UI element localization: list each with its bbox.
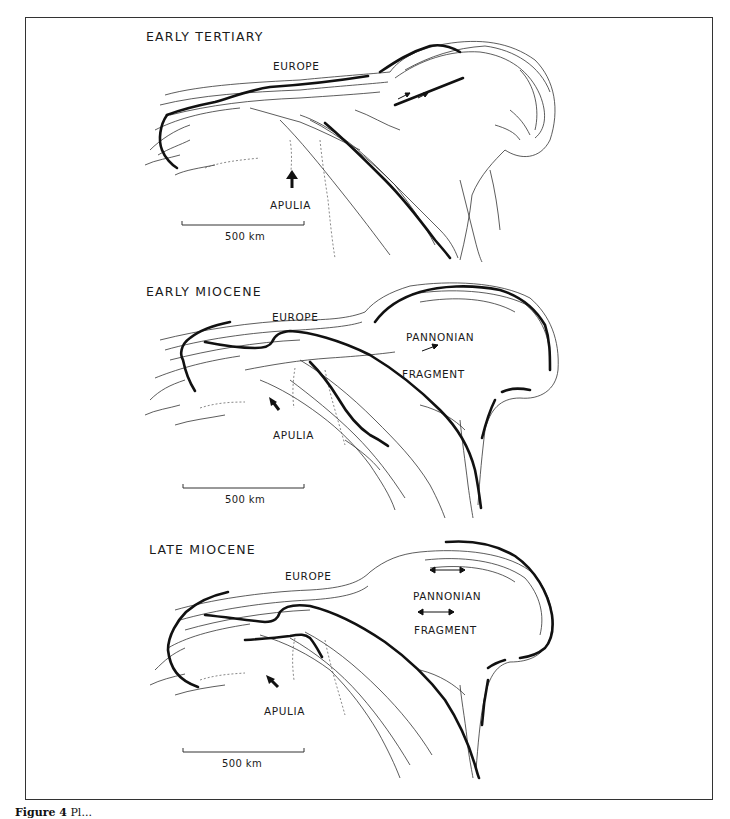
panel-early-miocene: EARLY MIOCENE EUROPE PANNONIAN FRAGMENT … xyxy=(0,260,730,520)
apulia-motion-arrow-icon xyxy=(266,675,278,687)
panel-title: EARLY MIOCENE xyxy=(146,284,262,299)
panel-early-tertiary: EARLY TERTIARY EUROPE APULIA 500 km xyxy=(0,0,730,260)
label-europe: EUROPE xyxy=(272,311,318,323)
apulia-motion-arrow-icon xyxy=(286,170,298,188)
scale-bar-label: 500 km xyxy=(225,494,265,505)
map-early-miocene xyxy=(0,260,730,525)
label-pannonian: PANNONIAN xyxy=(413,590,481,602)
map-early-tertiary xyxy=(0,0,730,265)
label-europe: EUROPE xyxy=(273,60,319,72)
label-apulia: APULIA xyxy=(273,429,314,441)
scale-bar-label: 500 km xyxy=(222,758,262,769)
figure-caption: Figure 4 Pl... xyxy=(15,806,92,819)
label-fragment: FRAGMENT xyxy=(402,368,465,380)
scale-bar xyxy=(182,221,304,225)
apulia-motion-arrow-icon xyxy=(269,397,279,410)
pannonian-motion-arrow-icon xyxy=(422,344,438,351)
scale-bar xyxy=(183,748,304,752)
panel-title: EARLY TERTIARY xyxy=(146,29,264,44)
caption-text: Pl... xyxy=(70,806,91,819)
label-fragment: FRAGMENT xyxy=(414,624,477,636)
scale-bar xyxy=(183,484,304,488)
map-late-miocene xyxy=(0,520,730,785)
panel-title: LATE MIOCENE xyxy=(149,542,256,557)
caption-prefix: Figure 4 xyxy=(15,806,67,819)
panel-late-miocene: LATE MIOCENE EUROPE PANNONIAN FRAGMENT A… xyxy=(0,520,730,780)
label-pannonian: PANNONIAN xyxy=(406,331,474,343)
scale-bar-label: 500 km xyxy=(225,231,265,242)
label-apulia: APULIA xyxy=(264,705,305,717)
label-europe: EUROPE xyxy=(285,570,331,582)
label-apulia: APULIA xyxy=(270,199,311,211)
